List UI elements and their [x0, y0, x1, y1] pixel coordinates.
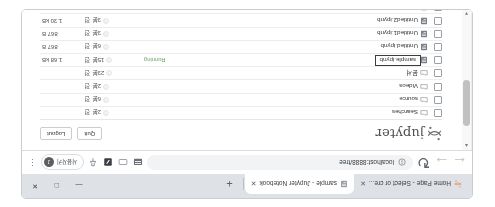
time-text: 2분 전 [84, 10, 101, 12]
jupyter-header-buttons: Quit Logout [40, 127, 102, 140]
file-name[interactable]: source [144, 96, 419, 103]
profile-button[interactable]: 사용자키 J [41, 155, 84, 171]
jupyter-logo[interactable]: jupyter [375, 126, 442, 141]
jupyter-header: jupyter Quit Logout [40, 120, 442, 150]
file-name[interactable]: sample.ipynb [377, 57, 419, 64]
quit-button[interactable]: Quit [77, 127, 102, 140]
table-row[interactable]: Untitled.ipynb 6분 전 867 B [40, 40, 442, 53]
avatar: J [44, 158, 54, 168]
time-text: 23분 전 [84, 69, 104, 78]
notebook-favicon-icon [340, 180, 348, 188]
clock-icon [103, 31, 109, 37]
tab-strip: Home Page - Select or cre... ✕ sample - … [22, 174, 472, 198]
back-button-icon[interactable]: ← [452, 155, 467, 170]
forward-button-icon[interactable]: → [434, 155, 449, 170]
close-window-button[interactable]: ✕ [24, 175, 46, 197]
notebook-icon [419, 10, 430, 11]
clock-icon [106, 70, 112, 76]
table-row[interactable]: source 6분 전 [40, 93, 442, 106]
pin-extensions-icon[interactable] [87, 157, 99, 169]
address-bar[interactable]: localhost:8888/tree [147, 155, 413, 170]
table-row[interactable]: Videos 2분 전 [40, 79, 442, 92]
file-modified-time: 2분 전 [84, 82, 136, 91]
clock-icon [106, 57, 112, 63]
file-name[interactable]: Untitled.ipynb [144, 43, 419, 50]
tab-title: sample - Jupyter Notebook [259, 181, 337, 188]
row-checkbox[interactable] [430, 56, 442, 64]
scrollbar-thumb[interactable] [463, 80, 470, 126]
file-size: 1.30 kB [40, 18, 84, 24]
tab-sample-notebook[interactable]: sample - Jupyter Notebook ✕ [245, 174, 355, 194]
jupyter-logo-icon [427, 126, 442, 141]
maximize-button[interactable]: □ [46, 175, 68, 197]
file-size: 1.68 kB [40, 57, 84, 63]
file-name[interactable]: Videos [144, 83, 419, 90]
table-row[interactable]: 문서 23분 전 [40, 66, 442, 79]
extension-icon-3[interactable] [102, 157, 114, 169]
folder-icon [419, 109, 430, 117]
running-badge: Running [136, 57, 166, 63]
file-modified-time: 23분 전 [84, 69, 136, 78]
new-tab-button[interactable]: + [222, 176, 238, 192]
page-viewport: ▲ ▼ jupyter [22, 10, 472, 150]
file-modified-time: 6분 전 [84, 95, 136, 104]
table-row[interactable]: Untitled1.ipynb 3분 전 867 B [40, 27, 442, 40]
row-checkbox[interactable] [430, 69, 442, 77]
screenshot-canvas: Home Page - Select or cre... ✕ sample - … [0, 0, 495, 207]
browser-toolbar: ← → ↻ localhost:8888/tree [22, 150, 472, 174]
row-checkbox[interactable] [430, 43, 442, 51]
browser-window: Home Page - Select or cre... ✕ sample - … [21, 9, 473, 199]
time-text: 15분 전 [84, 56, 104, 65]
notebook-icon [419, 17, 430, 25]
file-name[interactable]: Untitled3.ipynb [144, 10, 419, 11]
profile-label: 사용자키 [57, 159, 77, 167]
notebook-icon [419, 43, 430, 51]
notebook-icon [419, 30, 430, 38]
extension-icon-2[interactable] [117, 157, 129, 169]
file-modified-time: 15분 전 [84, 56, 136, 65]
tab-close-icon[interactable]: ✕ [360, 181, 366, 188]
site-info-icon[interactable] [398, 159, 406, 167]
file-size: 867 B [40, 44, 84, 50]
scroll-up-arrow-icon[interactable]: ▲ [462, 142, 471, 150]
row-checkbox[interactable] [430, 109, 442, 117]
chrome-menu-icon[interactable] [27, 156, 38, 170]
time-text: 2분 전 [84, 108, 101, 117]
row-checkbox[interactable] [430, 17, 442, 25]
table-row[interactable]: sample.ipynb Running 15분 전 1.68 kB [40, 53, 442, 66]
file-modified-time: 3분 전 [84, 29, 136, 38]
file-name[interactable]: Untitled1.ipynb [144, 30, 419, 37]
file-name[interactable]: Searches [144, 109, 419, 116]
row-checkbox[interactable] [430, 30, 442, 38]
time-text: 3분 전 [84, 16, 101, 25]
row-checkbox[interactable] [430, 83, 442, 91]
extension-icon-1[interactable] [132, 157, 144, 169]
folder-icon [419, 69, 430, 77]
scroll-down-arrow-icon[interactable]: ▼ [462, 10, 471, 18]
file-name[interactable]: Untitled2.ipynb [144, 17, 419, 24]
window-controls: — □ ✕ [24, 174, 90, 198]
jupyter-page: jupyter Quit Logout Searches [22, 10, 462, 150]
tab-title: Home Page - Select or cre... [369, 181, 451, 188]
row-checkbox[interactable] [430, 10, 442, 11]
table-row[interactable]: Untitled2.ipynb 3분 전 1.30 kB [40, 14, 442, 27]
time-text: 2분 전 [84, 82, 101, 91]
page-scrollbar[interactable]: ▲ ▼ [462, 10, 472, 150]
minimize-button[interactable]: — [68, 175, 90, 197]
row-checkbox[interactable] [430, 96, 442, 104]
url-text: localhost:8888/tree [339, 159, 394, 166]
tab-home-page[interactable]: Home Page - Select or cre... ✕ [354, 174, 468, 194]
reload-button-icon[interactable]: ↻ [416, 155, 431, 170]
file-list: Searches 2분 전 [40, 10, 442, 120]
time-text: 3분 전 [84, 29, 101, 38]
rotated-content: Home Page - Select or cre... ✕ sample - … [0, 0, 495, 207]
table-row[interactable]: Untitled3.ipynb 2분 전 555 B [40, 10, 442, 14]
logout-button[interactable]: Logout [40, 127, 72, 140]
notebook-icon [419, 56, 430, 64]
time-text: 6분 전 [84, 42, 101, 51]
clock-icon [103, 84, 109, 90]
table-row[interactable]: Searches 2분 전 [40, 106, 442, 119]
tab-close-icon[interactable]: ✕ [251, 181, 257, 188]
file-name[interactable]: 문서 [144, 69, 419, 78]
jupyter-logo-text: jupyter [375, 126, 424, 141]
